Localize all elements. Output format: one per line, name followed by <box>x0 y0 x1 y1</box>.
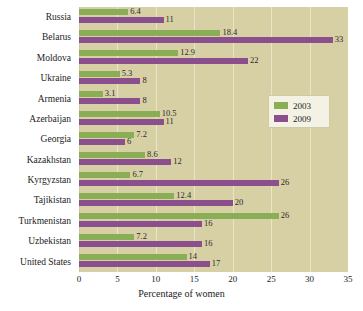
value-label-2009-russia: 11 <box>166 14 174 24</box>
category-label-united-states: United States <box>20 252 71 272</box>
bar-2009-russia[interactable] <box>79 17 164 23</box>
bar-2003-kyrgyzstan[interactable] <box>79 172 130 178</box>
bar-row: 2616 <box>79 211 348 231</box>
value-label-2009-ukraine: 8 <box>142 75 146 85</box>
bar-2003-turkmenistan[interactable] <box>79 213 279 219</box>
value-label-2009-moldova: 22 <box>250 55 259 65</box>
value-label-2009-tajikistan: 20 <box>235 197 244 207</box>
category-label-kyrgyzstan: Kyrgyzstan <box>27 170 71 190</box>
x-tick-25: 25 <box>267 274 276 284</box>
bar-row: 6.726 <box>79 170 348 190</box>
legend-swatch-2009-icon <box>274 115 288 122</box>
x-tick-0: 0 <box>77 274 82 284</box>
bar-row: 12.922 <box>79 48 348 68</box>
category-label-armenia: Armenia <box>38 89 71 109</box>
legend-item-2009[interactable]: 2009 <box>274 112 329 125</box>
bar-row: 7.26 <box>79 129 348 149</box>
category-label-azerbaijan: Azerbaijan <box>29 109 71 129</box>
bar-row: 8.612 <box>79 150 348 170</box>
value-label-2003-georgia: 7.2 <box>136 129 147 139</box>
value-label-2003-united-states: 14 <box>189 251 198 261</box>
legend: 2003 2009 <box>268 95 330 128</box>
value-label-2003-kazakhstan: 8.6 <box>147 149 158 159</box>
legend-label-2003: 2003 <box>293 101 311 111</box>
x-tick-35: 35 <box>344 274 353 284</box>
x-tick-15: 15 <box>190 274 199 284</box>
bar-2003-tajikistan[interactable] <box>79 193 174 199</box>
value-label-2009-georgia: 6 <box>127 136 131 146</box>
bar-2009-turkmenistan[interactable] <box>79 221 202 227</box>
bar-row: 1417 <box>79 252 348 272</box>
category-axis-labels: RussiaBelarusMoldovaUkraineArmeniaAzerba… <box>0 7 75 272</box>
bar-2003-moldova[interactable] <box>79 50 178 56</box>
value-label-2003-belarus: 18.4 <box>222 27 237 37</box>
category-label-georgia: Georgia <box>41 129 71 149</box>
category-label-belarus: Belarus <box>42 27 71 47</box>
bar-2009-azerbaijan[interactable] <box>79 119 164 125</box>
category-label-ukraine: Ukraine <box>40 68 71 88</box>
bar-2003-azerbaijan[interactable] <box>79 111 160 117</box>
x-tick-30: 30 <box>305 274 314 284</box>
bar-2009-uzbekistan[interactable] <box>79 241 202 247</box>
x-axis-title: Percentage of women <box>0 288 363 299</box>
value-label-2003-moldova: 12.9 <box>180 47 195 57</box>
bar-2009-kyrgyzstan[interactable] <box>79 180 279 186</box>
category-label-russia: Russia <box>46 7 71 27</box>
x-axis: 05101520253035 <box>79 272 348 286</box>
bar-2009-tajikistan[interactable] <box>79 200 233 206</box>
value-label-2003-uzbekistan: 7.2 <box>136 231 147 241</box>
bar-row: 7.216 <box>79 231 348 251</box>
category-label-tajikistan: Tajikistan <box>34 190 71 210</box>
value-label-2003-turkmenistan: 26 <box>281 210 290 220</box>
value-label-2003-russia: 6.4 <box>130 7 141 16</box>
bar-2003-ukraine[interactable] <box>79 71 120 77</box>
bar-2003-russia[interactable] <box>79 9 128 15</box>
bar-2003-uzbekistan[interactable] <box>79 234 134 240</box>
bar-2003-armenia[interactable] <box>79 91 103 97</box>
bar-2009-georgia[interactable] <box>79 139 125 145</box>
value-label-2009-kazakhstan: 12 <box>173 156 182 166</box>
value-label-2009-united-states: 17 <box>212 258 221 268</box>
bar-2009-kazakhstan[interactable] <box>79 159 171 165</box>
x-tick-5: 5 <box>115 274 120 284</box>
legend-item-2003[interactable]: 2003 <box>274 99 329 112</box>
value-label-2009-azerbaijan: 11 <box>166 116 174 126</box>
bar-2003-kazakhstan[interactable] <box>79 152 145 158</box>
value-label-2009-kyrgyzstan: 26 <box>281 177 290 187</box>
value-label-2009-turkmenistan: 16 <box>204 218 213 228</box>
legend-label-2009: 2009 <box>293 114 311 124</box>
bar-2003-belarus[interactable] <box>79 30 220 36</box>
bar-row: 5.38 <box>79 68 348 88</box>
value-label-2009-armenia: 8 <box>142 95 146 105</box>
bar-row: 12.420 <box>79 190 348 210</box>
x-tick-10: 10 <box>151 274 160 284</box>
value-label-2003-kyrgyzstan: 6.7 <box>132 169 143 179</box>
value-label-2003-ukraine: 5.3 <box>122 68 133 78</box>
value-label-2009-uzbekistan: 16 <box>204 238 213 248</box>
bar-2003-georgia[interactable] <box>79 132 134 138</box>
bar-2009-armenia[interactable] <box>79 98 140 104</box>
bar-chart: RussiaBelarusMoldovaUkraineArmeniaAzerba… <box>0 0 363 311</box>
legend-swatch-2003-icon <box>274 102 288 109</box>
bar-row: 18.433 <box>79 27 348 47</box>
category-label-kazakhstan: Kazakhstan <box>27 150 71 170</box>
category-label-uzbekistan: Uzbekistan <box>28 231 71 251</box>
chart-title-strip <box>0 0 363 7</box>
bar-2009-belarus[interactable] <box>79 37 333 43</box>
bar-row: 6.411 <box>79 7 348 27</box>
value-label-2003-tajikistan: 12.4 <box>176 190 191 200</box>
bar-2003-united-states[interactable] <box>79 254 187 260</box>
category-label-turkmenistan: Turkmenistan <box>19 211 71 231</box>
x-tick-20: 20 <box>228 274 237 284</box>
bar-2009-united-states[interactable] <box>79 261 210 267</box>
plot-area: 6.41118.43312.9225.383.1810.5117.268.612… <box>79 7 348 272</box>
value-label-2003-armenia: 3.1 <box>105 88 116 98</box>
value-label-2009-belarus: 33 <box>335 34 344 44</box>
bar-2009-ukraine[interactable] <box>79 78 140 84</box>
category-label-moldova: Moldova <box>37 48 71 68</box>
bar-2009-moldova[interactable] <box>79 58 248 64</box>
